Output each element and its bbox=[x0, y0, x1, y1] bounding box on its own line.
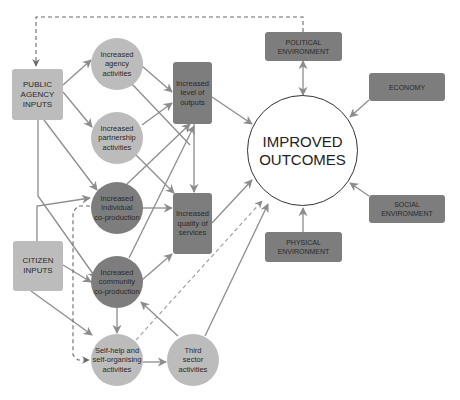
agency-activities-node: Increased agency activities bbox=[91, 38, 143, 90]
agency-activities-label: Increased agency activities bbox=[101, 50, 134, 79]
individual-coproduction-label: Increased individual co-production bbox=[94, 194, 139, 223]
public-agency-inputs-node: PUBLIC AGENCY INPUTS bbox=[12, 69, 63, 120]
service-quality-node: Increased quality of services bbox=[173, 193, 212, 254]
economy-label: ECONOMY bbox=[389, 83, 425, 92]
citizen-inputs-node: CITIZEN INPUTS bbox=[13, 241, 63, 291]
self-help-activities-label: Self-help and self-organising activities bbox=[93, 346, 142, 375]
outputs-level-label: Increased level of outputs bbox=[176, 79, 209, 108]
physical-environment-node: PHYSICAL ENVIRONMENT bbox=[265, 232, 342, 262]
community-coproduction-label: Increased community co-production bbox=[94, 268, 139, 297]
improved-outcomes-label: IMPROVED OUTCOMES bbox=[259, 133, 346, 169]
political-environment-node: POLITICAL ENVIRONMENT bbox=[265, 32, 342, 61]
co-production-diagram: PUBLIC AGENCY INPUTS CITIZEN INPUTS Incr… bbox=[0, 0, 460, 400]
outputs-level-node: Increased level of outputs bbox=[173, 62, 212, 124]
third-sector-activities-node: Third sector activities bbox=[167, 334, 219, 386]
service-quality-label: Increased quality of services bbox=[176, 209, 209, 238]
physical-environment-label: PHYSICAL ENVIRONMENT bbox=[278, 238, 330, 256]
social-environment-label: SOCIAL ENVIRONMENT bbox=[381, 200, 433, 218]
social-environment-node: SOCIAL ENVIRONMENT bbox=[369, 195, 445, 223]
community-coproduction-node: Increased community co-production bbox=[91, 256, 143, 308]
self-help-activities-node: Self-help and self-organising activities bbox=[91, 334, 143, 386]
public-agency-inputs-label: PUBLIC AGENCY INPUTS bbox=[21, 80, 55, 110]
individual-coproduction-node: Increased individual co-production bbox=[91, 182, 143, 234]
political-environment-label: POLITICAL ENVIRONMENT bbox=[278, 38, 330, 56]
improved-outcomes-node: IMPROVED OUTCOMES bbox=[247, 95, 358, 206]
third-sector-activities-label: Third sector activities bbox=[179, 346, 208, 375]
partnership-activities-label: Increased partnership activities bbox=[98, 124, 136, 153]
partnership-activities-node: Increased partnership activities bbox=[91, 112, 143, 164]
citizen-inputs-label: CITIZEN INPUTS bbox=[22, 256, 53, 276]
economy-node: ECONOMY bbox=[369, 73, 445, 101]
